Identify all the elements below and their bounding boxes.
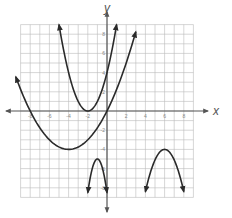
x-tick-label: -6 [47,113,52,119]
y-tick-label: 6 [102,50,105,56]
x-tick-label: 4 [144,113,147,119]
y-tick-label: -4 [101,146,106,152]
x-tick-label: 6 [163,113,166,119]
curve-parabola-vertex-(-4,-4) [16,32,136,150]
x-tick-label: -2 [86,113,91,119]
coordinate-plane: -8-6-4-224688642-2-4-6-8 x y [0,0,232,218]
x-tick-label: 2 [125,113,128,119]
y-tick-label: 4 [102,70,105,76]
y-axis-label: y [103,1,111,15]
x-tick-label: -4 [66,113,71,119]
y-tick-label: -8 [101,185,106,191]
x-tick-label: 8 [182,113,185,119]
y-tick-label: -2 [101,127,106,133]
x-axis-label: x [212,104,220,118]
y-tick-label: 8 [102,31,105,37]
